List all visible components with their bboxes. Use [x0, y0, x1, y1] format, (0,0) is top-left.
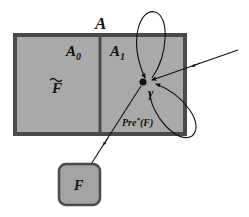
f-tilde-label: F [51, 80, 62, 96]
diagram-canvas: A A0 A1 F γ Pre*(F) F [0, 0, 249, 217]
state-gamma-dot [140, 79, 147, 86]
target-f-label: F [73, 178, 84, 193]
arrow-to-target-midhead [104, 138, 108, 144]
set-a-label: A [94, 14, 106, 33]
incoming-arrow-midhead [193, 63, 200, 66]
state-gamma-label: γ [148, 85, 154, 100]
